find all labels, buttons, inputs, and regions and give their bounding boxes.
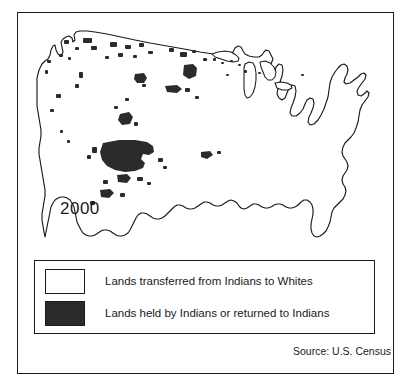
reservation-patch xyxy=(134,122,138,126)
reservation-patch xyxy=(158,158,163,162)
reservation-patch xyxy=(120,193,125,197)
reservation-patch xyxy=(221,62,224,64)
figure-container: 2000 Lands transferred from Indians to W… xyxy=(0,0,412,389)
legend-item-held: Lands held by Indians or returned to Ind… xyxy=(45,300,329,326)
reservation-patch xyxy=(110,42,117,47)
year-label: 2000 xyxy=(60,199,100,219)
reservation-patch xyxy=(192,50,196,53)
reservation-patch xyxy=(244,70,247,73)
reservation-patch xyxy=(92,147,97,153)
legend-label-held: Lands held by Indians or returned to Ind… xyxy=(105,307,329,319)
reservation-patch xyxy=(125,45,131,49)
source-attribution: Source: U.S. Census xyxy=(293,345,391,357)
reservation-patch xyxy=(75,84,79,88)
reservation-patch xyxy=(238,64,241,66)
reservation-patch xyxy=(103,180,108,184)
reservation-patch xyxy=(139,43,144,47)
reservation-patch xyxy=(118,53,123,57)
reservation-patch xyxy=(60,130,63,133)
reservation-patch xyxy=(195,96,199,99)
reservation-patch xyxy=(56,94,61,98)
reservation-patch xyxy=(87,155,91,159)
reservation-patch xyxy=(148,51,153,54)
reservation-patch xyxy=(45,70,48,74)
reservation-patch xyxy=(180,52,187,57)
legend-swatch-dark xyxy=(45,301,85,326)
reservation-patch xyxy=(67,140,70,143)
legend-label-transferred: Lands transferred from Indians to Whites xyxy=(105,275,313,287)
reservation-patch xyxy=(169,48,174,52)
reservation-patch xyxy=(142,84,146,87)
reservation-patch xyxy=(47,60,51,63)
reservation-patch xyxy=(79,72,83,78)
reservation-patch xyxy=(83,38,92,43)
reservation-patch xyxy=(147,182,151,185)
reservation-patch xyxy=(258,72,261,74)
reservation-patch xyxy=(226,74,229,76)
reservation-patch xyxy=(185,88,190,92)
reservation-patch xyxy=(105,56,109,59)
reservation-patch xyxy=(59,54,63,57)
reservation-patch xyxy=(301,74,304,76)
legend-swatch-white xyxy=(45,269,85,294)
reservation-patch xyxy=(163,166,167,169)
legend: Lands transferred from Indians to Whites… xyxy=(34,260,375,334)
legend-item-transferred: Lands transferred from Indians to Whites xyxy=(45,268,313,294)
reservation-patch xyxy=(50,109,54,112)
reservation-patch xyxy=(217,151,221,154)
reservation-patch xyxy=(137,177,143,181)
reservation-patch xyxy=(125,98,129,101)
reservation-patch xyxy=(203,58,207,61)
reservation-patch xyxy=(213,58,216,61)
reservation-patch xyxy=(133,55,137,58)
reservation-patch xyxy=(75,47,79,50)
reservation-patch xyxy=(68,57,71,60)
reservation-patch xyxy=(91,46,97,50)
reservation-patch xyxy=(114,106,118,109)
reservation-patch xyxy=(230,60,233,62)
reservation-patch xyxy=(64,40,69,44)
